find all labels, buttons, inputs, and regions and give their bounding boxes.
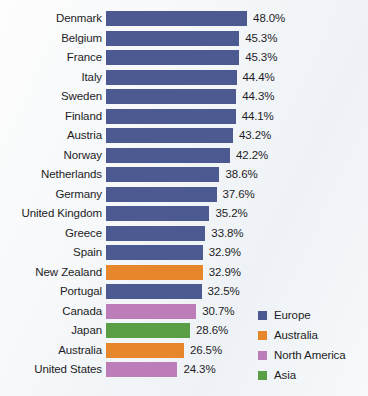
legend-label: Asia bbox=[274, 369, 296, 381]
bar-europe bbox=[106, 148, 230, 163]
bar-row: Greece33.8% bbox=[0, 226, 368, 241]
bar-europe bbox=[106, 167, 219, 182]
bar-europe bbox=[106, 109, 236, 124]
bar-europe bbox=[106, 128, 233, 143]
legend-label: Australia bbox=[274, 329, 318, 341]
bar-row: Portugal32.5% bbox=[0, 284, 368, 299]
bar-north-america bbox=[106, 362, 177, 377]
category-label: Portugal bbox=[0, 284, 102, 299]
category-label: Australia bbox=[0, 343, 102, 358]
bar-value-label: 32.9% bbox=[209, 265, 241, 280]
bar-value-label: 35.2% bbox=[215, 206, 247, 221]
bar-value-label: 32.9% bbox=[209, 245, 241, 260]
bar-europe bbox=[106, 70, 237, 85]
bar-value-label: 24.3% bbox=[183, 362, 215, 377]
category-label: Denmark bbox=[0, 11, 102, 26]
bar-value-label: 28.6% bbox=[196, 323, 228, 338]
bar-north-america bbox=[106, 304, 196, 319]
bar-row: Spain32.9% bbox=[0, 245, 368, 260]
bar-europe bbox=[106, 284, 202, 299]
category-label: Germany bbox=[0, 187, 102, 202]
bar-value-label: 26.5% bbox=[190, 343, 222, 358]
legend-item: Asia bbox=[258, 365, 366, 385]
category-label: Spain bbox=[0, 245, 102, 260]
bar-value-label: 45.3% bbox=[245, 31, 277, 46]
bar-europe bbox=[106, 11, 247, 26]
bar-australia bbox=[106, 265, 203, 280]
category-label: Japan bbox=[0, 323, 102, 338]
category-label: New Zealand bbox=[0, 265, 102, 280]
bar-value-label: 45.3% bbox=[245, 50, 277, 65]
legend-item: Australia bbox=[258, 325, 366, 345]
bar-value-label: 43.2% bbox=[239, 128, 271, 143]
bar-value-label: 32.5% bbox=[208, 284, 240, 299]
bar-value-label: 33.8% bbox=[211, 226, 243, 241]
bar-value-label: 38.6% bbox=[225, 167, 257, 182]
legend-item: North America bbox=[258, 345, 366, 365]
bar-europe bbox=[106, 50, 239, 65]
category-label: Norway bbox=[0, 148, 102, 163]
legend-swatch-icon bbox=[258, 351, 267, 360]
bar-europe bbox=[106, 245, 203, 260]
category-label: Italy bbox=[0, 70, 102, 85]
bar-row: New Zealand32.9% bbox=[0, 265, 368, 280]
bar-europe bbox=[106, 31, 239, 46]
bar-value-label: 30.7% bbox=[202, 304, 234, 319]
bar-value-label: 44.3% bbox=[242, 89, 274, 104]
bar-australia bbox=[106, 343, 184, 358]
bar-row: Italy44.4% bbox=[0, 70, 368, 85]
bar-row: Finland44.1% bbox=[0, 109, 368, 124]
bar-row: France45.3% bbox=[0, 50, 368, 65]
bar-europe bbox=[106, 187, 217, 202]
legend-swatch-icon bbox=[258, 331, 267, 340]
bar-row: Austria43.2% bbox=[0, 128, 368, 143]
bar-europe bbox=[106, 89, 236, 104]
category-label: Austria bbox=[0, 128, 102, 143]
bar-value-label: 44.4% bbox=[243, 70, 275, 85]
bar-value-label: 44.1% bbox=[242, 109, 274, 124]
bar-value-label: 37.6% bbox=[223, 187, 255, 202]
chart-legend: EuropeAustraliaNorth AmericaAsia bbox=[258, 305, 366, 385]
category-label: Sweden bbox=[0, 89, 102, 104]
legend-swatch-icon bbox=[258, 371, 267, 380]
bar-row: United Kingdom35.2% bbox=[0, 206, 368, 221]
bar-row: Germany37.6% bbox=[0, 187, 368, 202]
bar-row: Norway42.2% bbox=[0, 148, 368, 163]
bar-europe bbox=[106, 206, 209, 221]
category-label: Finland bbox=[0, 109, 102, 124]
category-label: United States bbox=[0, 362, 102, 377]
bar-row: Denmark48.0% bbox=[0, 11, 368, 26]
category-label: Canada bbox=[0, 304, 102, 319]
legend-swatch-icon bbox=[258, 311, 267, 320]
category-label: United Kingdom bbox=[0, 206, 102, 221]
legend-item: Europe bbox=[258, 305, 366, 325]
bar-europe bbox=[106, 226, 205, 241]
bar-row: Netherlands38.6% bbox=[0, 167, 368, 182]
legend-label: North America bbox=[274, 349, 346, 361]
bar-asia bbox=[106, 323, 190, 338]
bar-row: Sweden44.3% bbox=[0, 89, 368, 104]
category-label: Belgium bbox=[0, 31, 102, 46]
bar-row: Belgium45.3% bbox=[0, 31, 368, 46]
bar-value-label: 42.2% bbox=[236, 148, 268, 163]
category-label: Netherlands bbox=[0, 167, 102, 182]
bar-value-label: 48.0% bbox=[253, 11, 285, 26]
legend-label: Europe bbox=[274, 309, 310, 321]
category-label: Greece bbox=[0, 226, 102, 241]
category-label: France bbox=[0, 50, 102, 65]
